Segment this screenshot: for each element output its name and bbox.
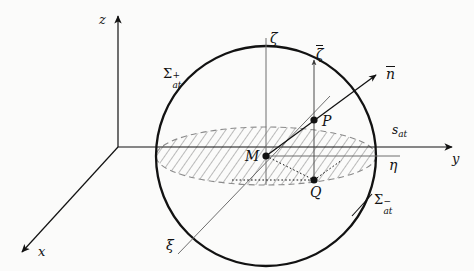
sigma-upper-label: Σ+at <box>163 67 185 80</box>
point-Q-dot <box>310 176 317 183</box>
zeta-bar-overline-group: ζ <box>316 47 324 61</box>
point-Q-label: Q <box>310 185 321 199</box>
sigma-minus-leader <box>352 194 372 216</box>
zeta-bar-label: ζ <box>316 47 324 61</box>
sigma-subscript-at: at <box>383 207 392 216</box>
zeta-axis-label: ζ <box>270 31 278 45</box>
point-P-label: P <box>322 114 331 128</box>
xi-axis-label: ξ <box>166 238 174 252</box>
y-axis-label: y <box>452 152 459 165</box>
eta-axis-label: η <box>389 158 397 172</box>
overline-rule <box>316 45 323 46</box>
s-at-label: sat <box>392 124 407 136</box>
x-axis-label: x <box>38 245 45 258</box>
overline-rule <box>386 66 394 67</box>
point-P-dot <box>310 116 317 123</box>
sigma-superscript-plus: + <box>173 71 181 80</box>
sigma-lower-label: Σ−at <box>374 193 396 206</box>
point-M-label: M <box>245 149 259 163</box>
s-subscript-at: at <box>398 129 407 139</box>
sigma-superscript-minus: − <box>384 197 392 206</box>
zeta-bar-letter: ζ <box>316 46 324 62</box>
x-axis-line <box>22 147 118 252</box>
figure-canvas: z y x ζ η ξ ζ n M P Q Σ+at Σ−at sat <box>0 0 474 271</box>
sigma-letter: Σ <box>374 192 383 207</box>
n-bar-label: n <box>386 67 395 81</box>
sigma-lower-group: Σ−at <box>374 193 396 206</box>
n-bar-overline-group: n <box>386 67 395 81</box>
z-axis-label: z <box>99 13 106 26</box>
point-M-dot <box>262 152 269 159</box>
n-bar-letter: n <box>386 66 395 82</box>
sigma-letter: Σ <box>163 66 172 81</box>
sigma-subscript-at: at <box>172 81 181 90</box>
sigma-upper-group: Σ+at <box>163 67 185 80</box>
